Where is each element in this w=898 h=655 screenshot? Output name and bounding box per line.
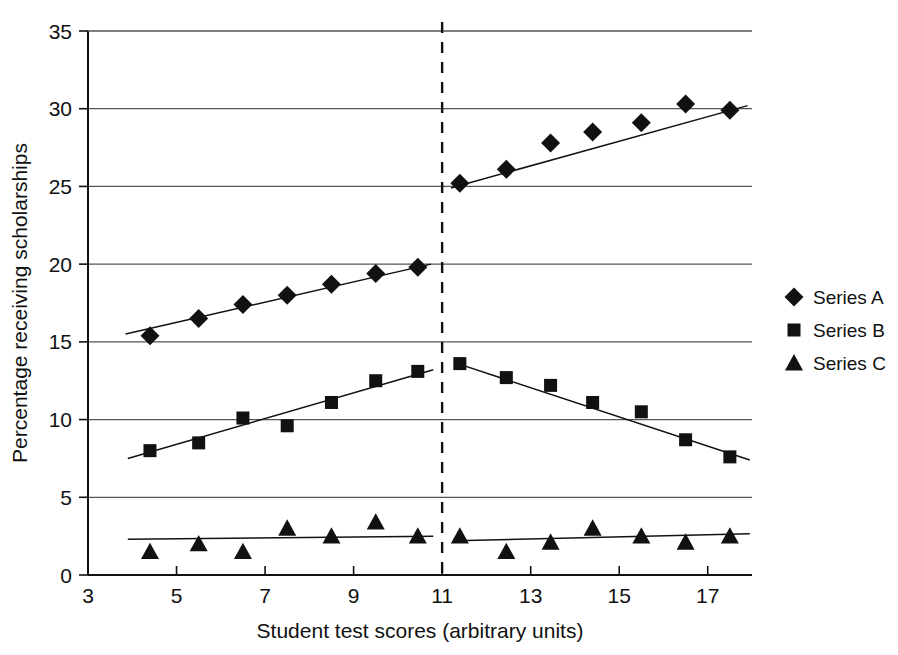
y-tick-label-5: 5 — [60, 486, 72, 509]
scatter-chart: 05101520253035357911131517 Series ASerie… — [0, 0, 898, 655]
marker-triangle — [632, 527, 650, 543]
marker-triangle — [190, 535, 208, 551]
marker-diamond — [233, 295, 252, 314]
x-tick-label-13: 13 — [519, 584, 542, 607]
marker-square — [192, 436, 205, 449]
chart-legend: Series ASeries BSeries C — [785, 287, 886, 374]
marker-square — [586, 396, 599, 409]
marker-diamond — [366, 264, 385, 283]
y-tick-label-0: 0 — [60, 564, 72, 587]
marker-diamond — [632, 113, 651, 132]
marker-triangle — [141, 543, 159, 559]
data-markers-group — [140, 95, 739, 560]
marker-square — [453, 357, 466, 370]
series-series-a-left-points — [140, 258, 427, 345]
x-tick-label-15: 15 — [608, 584, 631, 607]
marker-square — [635, 405, 648, 418]
x-tick-label-9: 9 — [348, 584, 360, 607]
marker-triangle — [451, 527, 469, 543]
y-axis-title: Percentage receiving scholarships — [8, 143, 31, 463]
legend-label-series-b: Series B — [813, 320, 885, 341]
marker-diamond — [450, 174, 469, 193]
trendline-series-a-right — [451, 106, 748, 188]
marker-square — [500, 371, 513, 384]
trendline-series-b-left — [128, 370, 433, 459]
marker-square — [143, 444, 156, 457]
marker-triangle — [322, 527, 340, 543]
legend-marker-triangle — [785, 354, 803, 370]
y-tick-label-10: 10 — [49, 408, 72, 431]
marker-diamond — [583, 123, 602, 142]
marker-triangle — [584, 519, 602, 535]
legend-label-series-c: Series C — [813, 353, 886, 374]
axes-group — [88, 31, 752, 575]
trendline-series-c-right — [455, 534, 749, 541]
marker-diamond — [541, 133, 560, 152]
marker-square — [723, 450, 736, 463]
marker-diamond — [408, 258, 427, 277]
axis-ticks-group — [79, 31, 708, 575]
y-tick-label-25: 25 — [49, 175, 72, 198]
y-tick-label-15: 15 — [49, 330, 72, 353]
trendline-series-c-left — [128, 536, 433, 539]
marker-diamond — [278, 286, 297, 305]
marker-square — [281, 419, 294, 432]
legend-marker-square — [788, 324, 801, 337]
marker-diamond — [720, 101, 739, 120]
marker-diamond — [322, 275, 341, 294]
x-tick-label-11: 11 — [431, 584, 453, 607]
y-tick-label-30: 30 — [49, 97, 72, 120]
marker-triangle — [234, 543, 252, 559]
marker-square — [544, 379, 557, 392]
legend-marker-diamond — [785, 288, 804, 307]
x-tick-label-3: 3 — [82, 584, 94, 607]
marker-diamond — [497, 160, 516, 179]
marker-triangle — [721, 527, 739, 543]
x-tick-label-17: 17 — [696, 584, 719, 607]
marker-square — [411, 365, 424, 378]
marker-triangle — [278, 519, 296, 535]
trendline-series-a-left — [126, 264, 431, 334]
marker-diamond — [189, 309, 208, 328]
series-series-b-right-points — [453, 357, 736, 463]
marker-square — [325, 396, 338, 409]
marker-triangle — [367, 513, 385, 529]
y-tick-label-35: 35 — [49, 20, 72, 43]
marker-diamond — [676, 95, 695, 114]
x-tick-label-7: 7 — [259, 584, 271, 607]
series-series-b-left-points — [143, 365, 424, 457]
y-tick-label-20: 20 — [49, 253, 72, 276]
marker-triangle — [542, 533, 560, 549]
legend-label-series-a: Series A — [813, 287, 884, 308]
axis-tick-labels-group: 05101520253035357911131517 — [49, 20, 720, 608]
marker-square — [369, 374, 382, 387]
x-tick-label-5: 5 — [171, 584, 183, 607]
marker-square — [236, 412, 249, 425]
marker-triangle — [409, 527, 427, 543]
x-axis-title: Student test scores (arbitrary units) — [257, 619, 584, 642]
trendlines-group — [126, 106, 750, 541]
chart-container: 05101520253035357911131517 Series ASerie… — [0, 0, 898, 655]
marker-triangle — [497, 543, 515, 559]
marker-square — [679, 433, 692, 446]
